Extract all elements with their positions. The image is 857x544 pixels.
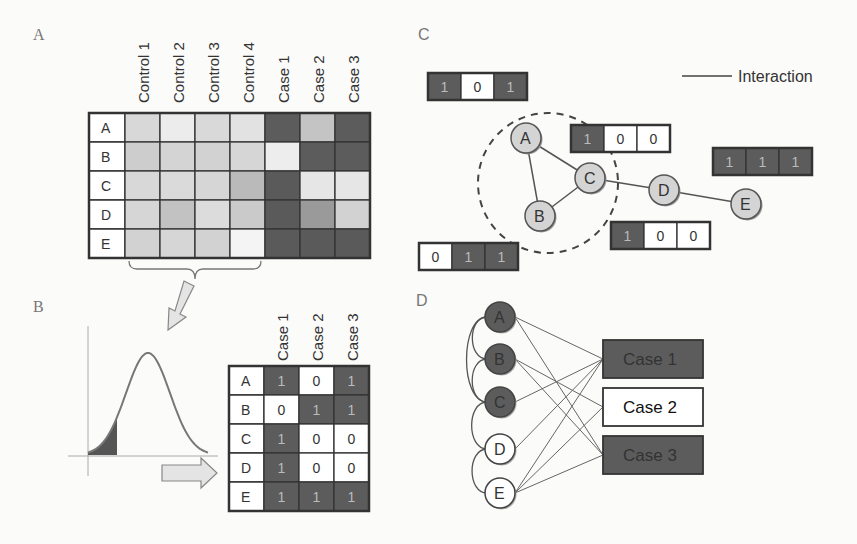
binary-value: 0 (348, 460, 356, 476)
profile-value: 0 (650, 131, 658, 147)
heatmap-cell (125, 229, 160, 258)
arrow-down-icon (168, 281, 194, 330)
column-header: Case 1 (274, 313, 291, 361)
panel-a-heatmap: Control 1Control 2Control 3Control 4Case… (89, 42, 370, 330)
row-label: C (241, 431, 251, 447)
heatmap-cell (300, 200, 335, 229)
binary-value: 1 (278, 489, 286, 505)
column-header: Control 2 (170, 42, 187, 103)
gaussian-curve (88, 353, 208, 453)
panel-b-binarization: Case 1Case 2Case 3A101B011C100D100E111 (68, 313, 369, 511)
gene-node-label: A (494, 309, 505, 326)
heatmap-cell (125, 142, 160, 171)
heatmap-cell (335, 200, 370, 229)
gene-node-label: B (534, 208, 545, 225)
gene-node-label: A (520, 130, 531, 147)
heatmap-cell (230, 229, 265, 258)
heatmap-cell (300, 171, 335, 200)
legend-label: Interaction (738, 68, 813, 85)
gene-case-link (515, 359, 603, 402)
binary-value: 1 (348, 373, 356, 389)
binary-value: 1 (348, 489, 356, 505)
gene-case-link (515, 359, 603, 449)
binary-value: 1 (313, 402, 321, 418)
binary-value: 1 (348, 402, 356, 418)
binary-value: 1 (313, 489, 321, 505)
heatmap-cell (160, 200, 195, 229)
panel-d-bipartite: ABCDECase 1Case 2Case 3 (467, 302, 703, 510)
profile-value: 1 (624, 228, 632, 244)
profile-value: 1 (498, 249, 506, 265)
profile-value: 1 (441, 79, 449, 95)
row-label: C (101, 178, 111, 194)
profile-value: 1 (584, 131, 592, 147)
binary-value: 1 (278, 431, 286, 447)
column-header: Control 4 (240, 42, 257, 103)
gene-case-link (515, 407, 603, 493)
heatmap-cell (230, 171, 265, 200)
heatmap-cell (160, 229, 195, 258)
heatmap-cell (195, 113, 230, 142)
row-label: E (101, 236, 110, 252)
panel-c-network: InteractionABCDE101100111011100 (419, 68, 813, 270)
case-label: Case 3 (623, 446, 677, 465)
heatmap-cell (125, 171, 160, 200)
profile-value: 0 (657, 228, 665, 244)
column-header: Case 3 (345, 55, 362, 103)
gene-node-label: B (494, 351, 505, 368)
gene-interaction-arc (472, 402, 487, 449)
gene-interaction-arc (472, 449, 487, 493)
gene-node-label: C (584, 170, 596, 187)
figure: A C B D Control 1Control 2Control 3Contr… (0, 0, 857, 544)
gene-node-label: E (494, 485, 505, 502)
panel-label-c: C (418, 26, 430, 43)
binary-value: 0 (313, 431, 321, 447)
heatmap-cell (300, 142, 335, 171)
binary-value: 1 (278, 373, 286, 389)
heatmap-cell (160, 142, 195, 171)
row-label: D (241, 460, 251, 476)
row-label: B (101, 149, 110, 165)
heatmap-cell (265, 200, 300, 229)
binary-value: 1 (278, 460, 286, 476)
gene-case-link (515, 359, 603, 455)
heatmap-cell (195, 142, 230, 171)
profile-value: 0 (432, 249, 440, 265)
gene-node-label: C (494, 394, 506, 411)
profile-value: 1 (726, 154, 734, 170)
heatmap-cell (265, 171, 300, 200)
column-header: Control 1 (135, 42, 152, 103)
case-label: Case 2 (623, 398, 677, 417)
heatmap-cell (230, 142, 265, 171)
tail-shaded-area (88, 417, 117, 455)
heatmap-cell (265, 229, 300, 258)
column-header: Control 3 (205, 42, 222, 103)
column-header: Case 1 (275, 55, 292, 103)
column-header: Case 3 (344, 313, 361, 361)
gene-interaction-arc (472, 359, 487, 402)
gene-case-link (515, 455, 603, 493)
heatmap-cell (300, 113, 335, 142)
heatmap-cell (230, 113, 265, 142)
gene-case-link (515, 359, 603, 407)
heatmap-cell (335, 113, 370, 142)
heatmap-cell (125, 200, 160, 229)
row-label: A (241, 373, 251, 389)
profile-value: 1 (759, 154, 767, 170)
binary-value: 0 (313, 373, 321, 389)
gene-case-link (515, 359, 603, 493)
profile-value: 1 (792, 154, 800, 170)
heatmap-cell (125, 113, 160, 142)
gene-node-label: E (740, 196, 751, 213)
heatmap-cell (160, 171, 195, 200)
row-label: D (101, 207, 111, 223)
heatmap-cell (195, 171, 230, 200)
gene-node-label: D (494, 441, 506, 458)
column-header: Case 2 (309, 313, 326, 361)
panel-label-d: D (416, 292, 428, 309)
heatmap-cell (300, 229, 335, 258)
binary-value: 0 (278, 402, 286, 418)
gene-interaction-arc (472, 317, 487, 359)
heatmap-cell (265, 113, 300, 142)
profile-value: 0 (690, 228, 698, 244)
